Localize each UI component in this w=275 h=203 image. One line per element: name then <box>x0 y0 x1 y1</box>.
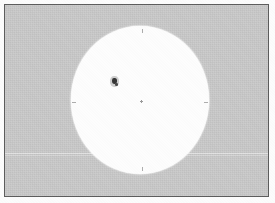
west-tick-icon <box>204 102 208 103</box>
plate-frame <box>4 4 269 197</box>
east-tick-icon <box>72 102 76 103</box>
sunspot-umbra-secondary <box>115 83 118 86</box>
screenshot-root <box>0 0 275 203</box>
north-tick-icon <box>142 29 143 33</box>
disk-center-mark-icon <box>140 100 143 103</box>
solar-disk <box>71 26 209 174</box>
south-tick-icon <box>142 167 143 171</box>
